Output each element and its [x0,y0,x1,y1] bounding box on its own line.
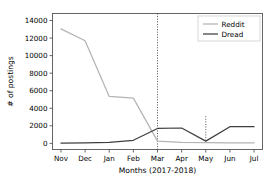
legend-label-dread: Dread [222,30,244,39]
x-tick-label: Jan [103,154,115,163]
y-tick-label: 4000 [29,104,48,113]
x-tick-label: Jul [249,154,259,163]
y-tick-label: 10000 [25,51,48,60]
y-axis-title: # of postings [6,56,15,107]
y-tick-label: 2000 [29,121,48,130]
x-tick-label: Feb [127,154,140,163]
x-tick-label: Nov [54,154,69,163]
x-tick-label: Jun [223,154,235,163]
y-tick-label: 14000 [25,16,48,25]
chart-figure: 02000400060008000100001200014000NovDecJa… [0,0,275,179]
x-tick-label: May [198,154,214,163]
legend-label-reddit: Reddit [222,20,245,29]
x-tick-label: Mar [151,154,165,163]
x-axis-title: Months (2017-2018) [119,166,197,175]
y-tick-label: 12000 [25,34,48,43]
x-tick-label: Apr [175,154,187,163]
y-tick-label: 8000 [29,69,48,78]
line-chart: 02000400060008000100001200014000NovDecJa… [0,0,275,179]
y-tick-label: 6000 [29,86,48,95]
y-tick-label: 0 [43,139,48,148]
x-tick-label: Dec [78,154,92,163]
